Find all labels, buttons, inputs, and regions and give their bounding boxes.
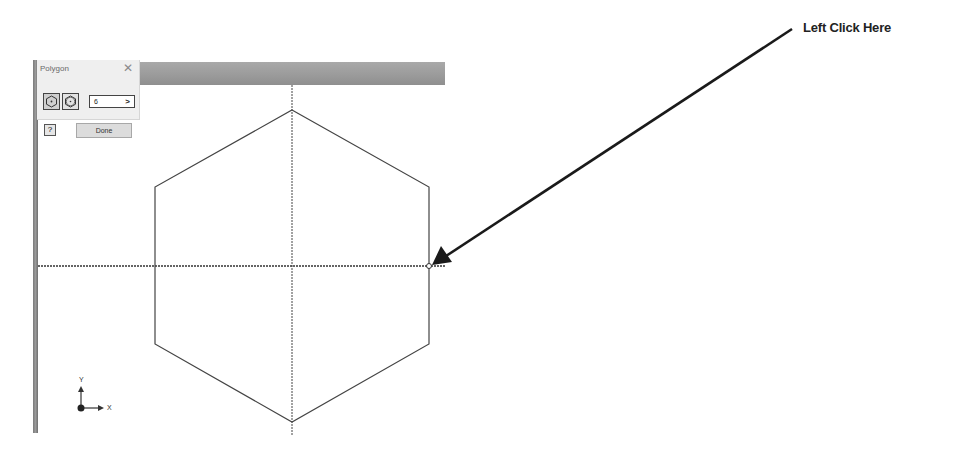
sides-flyout-arrow-icon[interactable]: >: [125, 97, 130, 106]
vertex-click-point[interactable]: [427, 264, 432, 269]
callout-label: Left Click Here: [803, 20, 891, 35]
close-icon[interactable]: ✕: [123, 61, 133, 75]
help-button[interactable]: ?: [44, 124, 56, 136]
inscribed-polygon-icon: [45, 95, 58, 108]
number-of-sides-input[interactable]: 6 >: [89, 95, 135, 108]
polygon-dialog: Polygon ✕ 6 > ? Done: [37, 60, 140, 120]
dialog-title: Polygon: [40, 64, 69, 73]
sketch-canvas[interactable]: [0, 0, 960, 459]
triad-y-label: Y: [79, 376, 84, 383]
circumscribed-mode-button[interactable]: [62, 93, 79, 110]
triad-y-arrow-icon: [78, 386, 84, 392]
sides-value: 6: [94, 98, 98, 105]
callout-arrow-line: [446, 29, 792, 256]
triad-origin-icon: [78, 405, 85, 412]
circumscribed-polygon-icon: [64, 95, 77, 108]
triad-x-arrow-icon: [98, 405, 104, 411]
inscribed-mode-button[interactable]: [43, 93, 60, 110]
triad-x-label: X: [107, 404, 112, 411]
done-button[interactable]: Done: [76, 123, 132, 138]
